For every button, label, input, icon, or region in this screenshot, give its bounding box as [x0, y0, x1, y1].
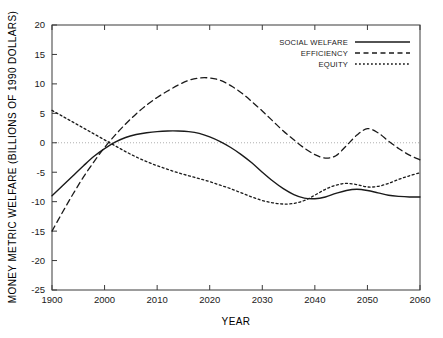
- axis-ticks: [52, 25, 420, 290]
- x-axis-title: YEAR: [222, 316, 251, 327]
- chart-legend: SOCIAL WELFAREEFFICIENCYEQUITY: [279, 38, 410, 69]
- y-tick-label: 20: [34, 19, 45, 30]
- axis-tick-labels: 20151050-5-10-15-20-25190020002010202020…: [31, 19, 430, 305]
- y-tick-label: 5: [40, 108, 45, 119]
- plot-frame: [52, 25, 420, 290]
- x-tick-label: 2050: [357, 294, 378, 305]
- x-tick-label: 2010: [147, 294, 168, 305]
- series-social-welfare: [52, 131, 420, 199]
- legend-label-efficiency: EFFICIENCY: [301, 49, 348, 58]
- chart-figure: 20151050-5-10-15-20-25190020002010202020…: [0, 0, 443, 338]
- x-tick-label: 2020: [199, 294, 220, 305]
- y-tick-label: 10: [34, 78, 45, 89]
- x-tick-label: 1900: [41, 294, 62, 305]
- y-tick-label: -5: [37, 167, 45, 178]
- data-series: [52, 78, 420, 231]
- x-tick-label: 2000: [94, 294, 115, 305]
- y-axis-title: MONEY METRIC WELFARE (BILLIONS OF 1990 D…: [7, 11, 18, 304]
- legend-label-equity: EQUITY: [319, 60, 348, 69]
- y-tick-label: -15: [31, 226, 45, 237]
- y-tick-label: 0: [40, 137, 45, 148]
- x-tick-label: 2040: [304, 294, 325, 305]
- welfare-line-chart: 20151050-5-10-15-20-25190020002010202020…: [0, 0, 443, 338]
- y-tick-label: -20: [31, 255, 45, 266]
- series-efficiency: [52, 78, 420, 231]
- x-tick-label: 2060: [409, 294, 430, 305]
- y-tick-label: -10: [31, 196, 45, 207]
- x-tick-label: 2030: [252, 294, 273, 305]
- y-tick-label: 15: [34, 49, 45, 60]
- legend-label-social-welfare: SOCIAL WELFARE: [279, 38, 348, 47]
